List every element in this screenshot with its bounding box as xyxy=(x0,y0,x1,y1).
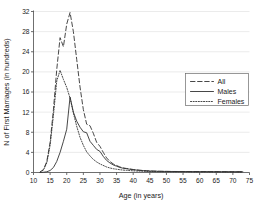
svg-text:40: 40 xyxy=(130,177,138,184)
series-line-males xyxy=(40,97,243,172)
svg-text:32: 32 xyxy=(22,8,30,15)
svg-text:75: 75 xyxy=(246,177,254,184)
svg-text:60: 60 xyxy=(196,177,204,184)
svg-text:24: 24 xyxy=(22,48,30,55)
legend-label-males: Males xyxy=(218,88,237,95)
svg-text:12: 12 xyxy=(22,109,30,116)
chart-figure: 0481216202428321015202530354045505560657… xyxy=(0,0,256,204)
svg-text:16: 16 xyxy=(22,88,30,95)
svg-text:25: 25 xyxy=(80,177,88,184)
legend-label-females: Females xyxy=(218,98,245,105)
svg-text:10: 10 xyxy=(30,177,38,184)
svg-text:20: 20 xyxy=(63,177,71,184)
svg-text:28: 28 xyxy=(22,28,30,35)
svg-text:70: 70 xyxy=(229,177,237,184)
svg-text:35: 35 xyxy=(113,177,121,184)
chart-legend: AllMalesFemales xyxy=(186,74,249,106)
svg-text:55: 55 xyxy=(179,177,187,184)
svg-text:0: 0 xyxy=(26,169,30,176)
svg-text:50: 50 xyxy=(163,177,171,184)
x-axis-title: Age (in years) xyxy=(119,191,164,200)
svg-text:4: 4 xyxy=(26,149,30,156)
line-chart: 0481216202428321015202530354045505560657… xyxy=(0,0,256,204)
legend-label-all: All xyxy=(218,78,226,85)
svg-text:15: 15 xyxy=(46,177,54,184)
svg-text:30: 30 xyxy=(96,177,104,184)
svg-text:20: 20 xyxy=(22,68,30,75)
svg-text:65: 65 xyxy=(213,177,221,184)
svg-text:8: 8 xyxy=(26,129,30,136)
y-axis-title: N of First Marriages (in hundreds) xyxy=(2,38,11,145)
svg-text:45: 45 xyxy=(146,177,154,184)
